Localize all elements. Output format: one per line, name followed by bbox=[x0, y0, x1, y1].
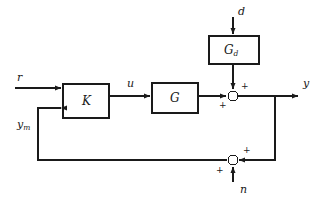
signal-label-disturbance: d bbox=[238, 6, 245, 17]
block-label-K: K bbox=[82, 95, 91, 107]
signal-label-noise: n bbox=[240, 184, 247, 195]
signal-label-reference: r bbox=[17, 72, 22, 83]
signal-label-control: u bbox=[127, 78, 134, 89]
signal-label-output: y bbox=[303, 78, 309, 89]
block-label-Gd: Gd bbox=[224, 44, 238, 57]
sign-sum-output-left: + bbox=[219, 101, 227, 110]
block-diagram-canvas: K G Gd r u d y ym n + + + + bbox=[0, 0, 327, 202]
signal-label-measured-subscript: m bbox=[23, 123, 30, 132]
junction-sum-feedback bbox=[228, 155, 238, 165]
diagram-vector-layer bbox=[0, 0, 327, 202]
sign-sum-feedback-left: + bbox=[216, 166, 224, 175]
sign-sum-feedback-right: + bbox=[243, 146, 251, 155]
signal-label-measured: ym bbox=[17, 119, 30, 131]
junction-sum-output bbox=[228, 91, 238, 101]
block-label-G: G bbox=[170, 92, 180, 104]
block-label-Gd-subscript: d bbox=[234, 49, 239, 58]
sign-sum-output-top: + bbox=[241, 82, 249, 91]
